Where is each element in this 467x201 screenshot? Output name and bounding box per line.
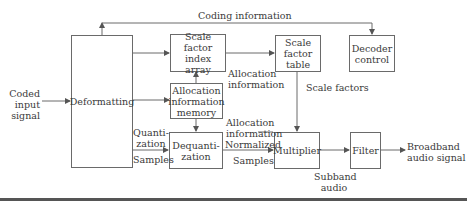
label-line: input — [4, 99, 40, 110]
deformatting-block: Deformatting — [71, 35, 133, 168]
block-label-line: Scale — [284, 37, 313, 48]
deformatting-label: Deformatting — [70, 96, 135, 107]
dequantization-block: Dequanti- zation — [169, 132, 223, 169]
block-label-line: Decoder — [352, 43, 393, 54]
label-line: Broadband — [407, 141, 465, 152]
scale-factor-index-array-block: Scale factor index array — [170, 34, 226, 72]
block-label-line: array — [171, 64, 225, 75]
allocation-information-memory-block: Allocation information memory — [170, 83, 223, 119]
filter-block: Filter — [350, 132, 381, 169]
subband-audio-label: Subband audio — [314, 171, 354, 193]
label-line: zation — [133, 138, 169, 149]
block-label-line: Allocation — [168, 85, 224, 96]
input-label: Coded input signal — [4, 88, 40, 121]
label-line: signal — [4, 110, 40, 121]
allocation-information-lower-label: Allocation information — [226, 117, 282, 139]
output-label: Broadband audio signal — [407, 141, 465, 163]
scale-factors-label: Scale factors — [306, 82, 369, 93]
label-line: Subband — [314, 171, 354, 182]
bottom-rule — [0, 198, 467, 201]
quantization-label: Quanti- zation — [133, 127, 169, 149]
block-label-line: table — [284, 59, 313, 70]
allocation-information-upper-label: Allocation information — [228, 68, 284, 90]
label-line: Coded — [4, 88, 40, 99]
block-label-line: control — [352, 54, 393, 65]
label-line: Allocation — [228, 68, 284, 79]
label-line: information — [228, 79, 284, 90]
block-label-line: Scale factor — [171, 31, 225, 53]
block-label-line: zation — [172, 151, 219, 162]
samples-left-label: Samples — [133, 154, 174, 165]
normalized-label: Normalized — [225, 139, 281, 150]
samples-right-label: Samples — [233, 155, 274, 166]
scale-factor-table-block: Scale factor table — [275, 35, 321, 72]
block-label-line: index — [171, 53, 225, 64]
coding-information-label: Coding information — [198, 10, 292, 21]
filter-label: Filter — [352, 145, 379, 156]
label-line: audio signal — [407, 152, 465, 163]
block-label-line: memory — [168, 107, 224, 118]
block-label-line: Dequanti- — [172, 140, 219, 151]
label-line: audio — [314, 182, 354, 193]
label-line: Allocation — [226, 117, 282, 128]
block-label-line: factor — [284, 48, 313, 59]
label-line: Quanti- — [133, 127, 169, 138]
block-label-line: information — [168, 96, 224, 107]
decoder-control-block: Decoder control — [349, 35, 395, 72]
label-line: information — [226, 128, 282, 139]
